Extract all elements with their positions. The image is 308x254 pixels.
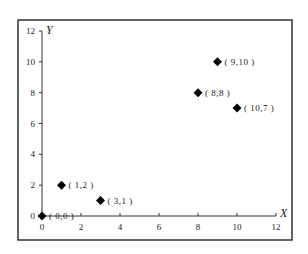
- x-tick-label: 6: [157, 222, 162, 232]
- x-tick-label: 4: [118, 222, 123, 232]
- y-tick-label: 4: [31, 149, 36, 159]
- y-tick-label: 2: [31, 180, 36, 190]
- x-tick-label: 8: [196, 222, 201, 232]
- diamond-marker-icon: [38, 212, 47, 221]
- x-tick-label: 12: [272, 222, 281, 232]
- point-label: ( 0,0 ): [49, 211, 74, 221]
- y-tick-label: 0: [31, 211, 36, 221]
- diamond-marker-icon: [194, 88, 203, 97]
- x-tick-label: 10: [233, 222, 243, 232]
- point-label: ( 3,1 ): [108, 196, 133, 206]
- x-tick-label: 0: [40, 222, 45, 232]
- diamond-marker-icon: [213, 57, 222, 66]
- y-tick-label: 12: [26, 26, 35, 36]
- x-tick-label: 2: [79, 222, 84, 232]
- point-label: ( 9,10 ): [225, 57, 255, 67]
- chart-frame: [18, 20, 292, 240]
- diamond-marker-icon: [57, 181, 66, 190]
- axes: 024681012024681012XY: [26, 23, 288, 232]
- x-axis-title: X: [279, 206, 288, 220]
- point-label: ( 10,7 ): [244, 103, 274, 113]
- y-tick-label: 6: [31, 119, 36, 129]
- scatter-chart: 024681012024681012XY ( 0,0 )( 1,2 )( 3,1…: [0, 0, 308, 254]
- diamond-marker-icon: [96, 196, 105, 205]
- y-axis-title: Y: [46, 23, 54, 37]
- y-tick-label: 8: [31, 88, 36, 98]
- point-label: ( 8,8 ): [205, 88, 230, 98]
- y-tick-label: 10: [26, 57, 36, 67]
- data-points: ( 0,0 )( 1,2 )( 3,1 )( 8,8 )( 9,10 )( 10…: [38, 57, 275, 221]
- diamond-marker-icon: [233, 104, 242, 113]
- point-label: ( 1,2 ): [69, 180, 94, 190]
